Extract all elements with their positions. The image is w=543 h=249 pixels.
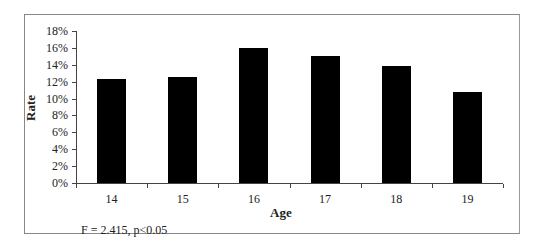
statistic-annotation: F = 2.415, p<0.05 <box>81 223 167 238</box>
y-tick <box>72 82 76 83</box>
y-tick <box>72 99 76 100</box>
y-tick-label: 12% <box>30 76 68 88</box>
y-tick-label: 6% <box>30 126 68 138</box>
y-tick <box>72 65 76 66</box>
bar-19 <box>453 92 482 183</box>
x-tick-label: 17 <box>305 192 345 207</box>
bar-14 <box>97 79 126 183</box>
x-tick <box>76 184 77 188</box>
bar-15 <box>168 77 197 183</box>
y-tick-label: 14% <box>30 59 68 71</box>
y-tick-label: 4% <box>30 143 68 155</box>
x-tick <box>290 184 291 188</box>
x-tick-label: 18 <box>376 192 416 207</box>
y-tick <box>72 132 76 133</box>
x-axis-title: Age <box>270 205 292 221</box>
x-tick-label: 19 <box>447 192 487 207</box>
y-tick-label: 16% <box>30 42 68 54</box>
x-tick <box>218 184 219 188</box>
x-tick <box>503 184 504 188</box>
bar-16 <box>239 48 268 183</box>
y-tick <box>72 48 76 49</box>
y-axis-line <box>76 31 77 184</box>
y-tick <box>72 31 76 32</box>
y-tick-label: 0% <box>30 177 68 189</box>
x-tick-label: 15 <box>163 192 203 207</box>
x-tick-label: 16 <box>234 192 274 207</box>
y-tick <box>72 149 76 150</box>
bar-18 <box>382 66 411 183</box>
y-tick-label: 18% <box>30 25 68 37</box>
x-tick <box>361 184 362 188</box>
x-tick <box>147 184 148 188</box>
y-tick <box>72 166 76 167</box>
y-axis-title: Rate <box>23 95 39 121</box>
y-tick-label: 2% <box>30 160 68 172</box>
x-tick-label: 14 <box>92 192 132 207</box>
x-tick <box>432 184 433 188</box>
bar-17 <box>311 56 340 183</box>
y-tick <box>72 115 76 116</box>
